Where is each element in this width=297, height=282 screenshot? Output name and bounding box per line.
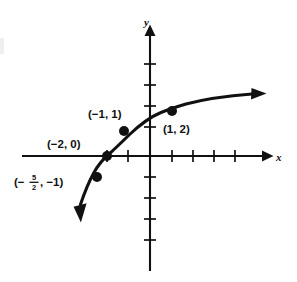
point-neg-5-2-neg-1	[92, 172, 102, 182]
y-axis	[145, 25, 156, 272]
point-1-2	[167, 106, 177, 116]
x-axis-label: x	[275, 151, 282, 163]
label-point-neg-2-0: (−2, 0)	[47, 138, 81, 150]
label-fraction-numerator: 5	[32, 173, 36, 182]
label-point-1-2: (1, 2)	[163, 123, 190, 135]
graph-figure: y x (−1, 1) (−2, 0) (1, 2) (− 5 2 , −1)	[0, 0, 297, 282]
label-point-neg-5-2-neg-1: (− 5 2 , −1)	[14, 173, 64, 192]
point-neg-1-1	[119, 126, 129, 136]
label-fraction-open: (−	[14, 176, 25, 188]
coordinate-plane: y x (−1, 1) (−2, 0) (1, 2) (− 5 2 , −1)	[0, 0, 297, 282]
y-axis-label: y	[142, 16, 149, 28]
label-point-neg-1-1: (−1, 1)	[88, 108, 122, 120]
point-neg-2-0	[102, 151, 112, 161]
label-fraction-denominator: 2	[32, 183, 36, 192]
label-fraction-close: , −1)	[40, 176, 64, 188]
